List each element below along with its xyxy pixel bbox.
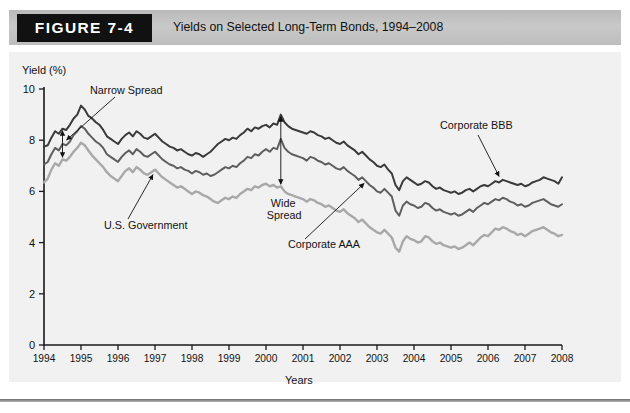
y-tick-label: 4 [29, 237, 35, 249]
x-tick-label: 1995 [70, 353, 93, 364]
x-tick-label: 2005 [440, 353, 463, 364]
x-tick-label: 2001 [292, 353, 315, 364]
x-tick-label: 2004 [403, 353, 426, 364]
annotation-wide-spread-line2: Spread [267, 209, 302, 221]
line-chart-svg: 0246810 19941995199619971998199920002001… [0, 0, 630, 413]
y-tick-label: 10 [23, 83, 35, 95]
figure-container: FIGURE 7-4 Yields on Selected Long-Term … [0, 0, 630, 413]
y-tick-label: 2 [29, 288, 35, 300]
annotation-narrow-spread: Narrow Spread [90, 84, 163, 96]
x-tick-label: 1996 [107, 353, 130, 364]
y-tick-label: 6 [29, 185, 35, 197]
x-tick-label: 2008 [551, 353, 574, 364]
y-axis-ticks: 0246810 [23, 83, 44, 351]
x-tick-label: 2002 [329, 353, 352, 364]
x-tick-label: 1999 [218, 353, 241, 364]
corporate-bbb-leader [478, 135, 499, 176]
chart-annotations-group: Narrow SpreadU.S. GovernmentWideSpreadCo… [63, 84, 513, 250]
annotation-wide-spread-line1: Wide [271, 197, 296, 209]
annotation-us-government: U.S. Government [104, 219, 187, 231]
y-tick-label: 8 [29, 134, 35, 146]
x-tick-label: 1994 [33, 353, 56, 364]
y-tick-label: 0 [29, 339, 35, 351]
x-tick-label: 1998 [181, 353, 204, 364]
bottom-divider [0, 399, 630, 402]
x-tick-label: 2003 [366, 353, 389, 364]
annotation-corporate-aaa: Corporate AAA [288, 238, 361, 250]
corporate-aaa-leader [305, 183, 364, 239]
x-axis-ticks: 1994199519961997199819992000200120022003… [33, 345, 574, 364]
x-tick-label: 2006 [477, 353, 500, 364]
x-tick-label: 2007 [514, 353, 537, 364]
annotation-corporate-bbb: Corporate BBB [440, 119, 513, 131]
us-government-leader [128, 175, 153, 219]
x-tick-label: 2000 [255, 353, 278, 364]
x-tick-label: 1997 [144, 353, 167, 364]
